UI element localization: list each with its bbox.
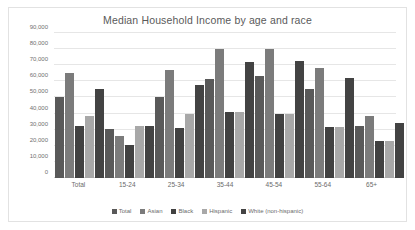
legend-item-label: Total [119, 208, 132, 214]
bar[interactable] [165, 70, 174, 178]
bar[interactable] [385, 141, 394, 178]
plot-area [54, 33, 396, 178]
legend-swatch-icon [171, 209, 176, 214]
bar[interactable] [225, 112, 234, 178]
legend-swatch-icon [112, 209, 117, 214]
bar[interactable] [285, 114, 294, 178]
bar[interactable] [205, 79, 214, 178]
chart-legend: TotalAsianBlackHispanicWhite (non-hispan… [9, 208, 406, 214]
y-axis-tick-label: 80,000 [30, 40, 48, 46]
legend-swatch-icon [241, 209, 246, 214]
bar-series-layer [54, 33, 396, 178]
bar[interactable] [175, 128, 184, 178]
bar-group [354, 33, 404, 178]
bar[interactable] [155, 97, 164, 178]
bar[interactable] [355, 126, 364, 178]
bar[interactable] [65, 73, 74, 178]
bar[interactable] [85, 116, 94, 178]
bar[interactable] [335, 127, 344, 178]
bar[interactable] [145, 126, 154, 178]
bar[interactable] [245, 62, 254, 178]
y-axis-tick-label: 20,000 [30, 137, 48, 143]
bar[interactable] [345, 78, 354, 178]
bar[interactable] [315, 68, 324, 178]
x-axis-tick-label: 55-64 [298, 181, 347, 193]
bar[interactable] [215, 49, 224, 178]
y-axis-tick-label: 40,000 [30, 105, 48, 111]
bar[interactable] [395, 123, 404, 178]
x-axis-tick-label: 65+ [347, 181, 396, 193]
bar[interactable] [265, 49, 274, 178]
bar-group [54, 33, 104, 178]
bar[interactable] [125, 145, 134, 178]
bar[interactable] [135, 126, 144, 178]
bar[interactable] [305, 89, 314, 178]
bar[interactable] [365, 116, 374, 178]
legend-item-label: White (non-hispanic) [248, 208, 303, 214]
bar-group [104, 33, 154, 178]
y-axis-tick-label: 90,000 [30, 24, 48, 30]
x-axis: Total15-2425-3435-4445-5455-6465+ [54, 181, 396, 193]
y-axis-tick-label: 70,000 [30, 56, 48, 62]
x-axis-tick-label: Total [54, 181, 103, 193]
legend-item-label: Hispanic [209, 208, 232, 214]
bar-group [204, 33, 254, 178]
chart-container: Median Household Income by age and race … [8, 7, 407, 222]
y-axis-tick-label: 10,000 [30, 153, 48, 159]
y-axis-tick-label: 0 [45, 169, 48, 175]
bar-group [254, 33, 304, 178]
bar[interactable] [75, 126, 84, 178]
legend-item[interactable]: Hispanic [202, 208, 232, 214]
legend-swatch-icon [140, 209, 145, 214]
bar[interactable] [185, 114, 194, 178]
bar-group [154, 33, 204, 178]
bar[interactable] [325, 127, 334, 178]
legend-item[interactable]: White (non-hispanic) [241, 208, 303, 214]
bar[interactable] [255, 76, 264, 178]
bar[interactable] [115, 136, 124, 178]
y-axis-tick-label: 30,000 [30, 121, 48, 127]
legend-item[interactable]: Total [112, 208, 132, 214]
bar[interactable] [105, 129, 114, 178]
legend-item[interactable]: Black [171, 208, 193, 214]
x-axis-tick-label: 35-44 [201, 181, 250, 193]
y-axis-tick-label: 60,000 [30, 72, 48, 78]
y-axis-tick-label: 50,000 [30, 88, 48, 94]
bar[interactable] [235, 112, 244, 178]
legend-item-label: Asian [147, 208, 162, 214]
bar[interactable] [95, 89, 104, 178]
chart-title: Median Household Income by age and race [9, 14, 406, 26]
bar[interactable] [55, 97, 64, 178]
bar[interactable] [295, 61, 304, 178]
x-axis-tick-label: 25-34 [152, 181, 201, 193]
x-axis-tick-label: 15-24 [103, 181, 152, 193]
bar[interactable] [275, 114, 284, 178]
legend-swatch-icon [202, 209, 207, 214]
bar[interactable] [375, 141, 384, 178]
legend-item[interactable]: Asian [140, 208, 162, 214]
bar-group [304, 33, 354, 178]
legend-item-label: Black [178, 208, 193, 214]
y-axis: 010,00020,00030,00040,00050,00060,00070,… [9, 33, 51, 178]
x-axis-tick-label: 45-54 [249, 181, 298, 193]
bar[interactable] [195, 85, 204, 178]
